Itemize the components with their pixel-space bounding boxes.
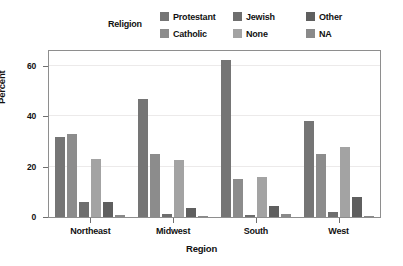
chart-legend: Religion Protestant Jewish Other xyxy=(108,8,380,42)
bar-west-other[interactable] xyxy=(352,197,362,217)
legend-label-protestant: Protestant xyxy=(173,12,216,22)
bar-northeast-na[interactable] xyxy=(115,215,125,217)
bar-northeast-other[interactable] xyxy=(103,202,113,217)
y-axis-label: Percent xyxy=(0,71,7,104)
chart-figure: Religion Protestant Jewish Other xyxy=(0,0,403,266)
legend-items: Protestant Jewish Other Catholic xyxy=(160,8,380,42)
bar-west-na[interactable] xyxy=(364,216,374,218)
legend-item-catholic[interactable]: Catholic xyxy=(160,25,233,42)
legend-item-na[interactable]: NA xyxy=(306,25,379,42)
bar-midwest-protestant[interactable] xyxy=(138,99,148,217)
legend-label-catholic: Catholic xyxy=(173,29,207,39)
legend-label-other: Other xyxy=(319,12,342,22)
bar-west-jewish[interactable] xyxy=(328,212,338,217)
legend-item-jewish[interactable]: Jewish xyxy=(233,8,306,25)
x-axis-label: Region xyxy=(0,243,403,254)
bar-midwest-none[interactable] xyxy=(174,160,184,217)
bar-south-catholic[interactable] xyxy=(233,179,243,217)
x-tick-mark xyxy=(256,218,257,223)
bar-northeast-catholic[interactable] xyxy=(67,134,77,217)
legend-label-na: NA xyxy=(319,29,332,39)
y-tick-label: 60 xyxy=(27,61,36,71)
legend-swatch-protestant xyxy=(160,12,169,21)
x-tick-label-midwest: Midwest xyxy=(156,226,190,236)
legend-row: Protestant Jewish Other xyxy=(160,8,380,25)
bar-northeast-none[interactable] xyxy=(91,159,101,217)
plot-area xyxy=(49,51,380,217)
bar-northeast-protestant[interactable] xyxy=(55,137,65,217)
x-tick-label-south: South xyxy=(244,226,269,236)
bar-midwest-na[interactable] xyxy=(198,216,208,218)
legend-swatch-none xyxy=(233,29,242,38)
bar-midwest-other[interactable] xyxy=(186,208,196,217)
bar-west-none[interactable] xyxy=(340,147,350,217)
bar-west-protestant[interactable] xyxy=(304,121,314,217)
plot-panel xyxy=(48,50,381,218)
bar-south-none[interactable] xyxy=(257,177,267,217)
bar-midwest-jewish[interactable] xyxy=(162,214,172,217)
legend-swatch-other xyxy=(306,12,315,21)
legend-item-protestant[interactable]: Protestant xyxy=(160,8,233,25)
y-tick-label: 40 xyxy=(27,111,36,121)
bar-west-catholic[interactable] xyxy=(316,154,326,217)
x-tick-label-northeast: Northeast xyxy=(70,226,110,236)
bar-midwest-catholic[interactable] xyxy=(150,154,160,217)
bar-group-northeast xyxy=(55,51,125,217)
x-tick-mark xyxy=(90,218,91,223)
bar-group-west xyxy=(304,51,374,217)
legend-swatch-jewish xyxy=(233,12,242,21)
legend-row: Catholic None NA xyxy=(160,25,380,42)
bar-south-jewish[interactable] xyxy=(245,215,255,218)
bar-group-midwest xyxy=(138,51,208,217)
legend-title: Religion xyxy=(108,19,142,29)
x-tick-mark xyxy=(339,218,340,223)
bar-northeast-jewish[interactable] xyxy=(79,202,89,217)
y-axis: 0204060 xyxy=(0,50,48,220)
legend-label-none: None xyxy=(246,29,268,39)
legend-item-other[interactable]: Other xyxy=(306,8,379,25)
y-tick-label: 20 xyxy=(27,162,36,172)
legend-swatch-catholic xyxy=(160,29,169,38)
legend-swatch-na xyxy=(306,29,315,38)
bar-group-south xyxy=(221,51,291,217)
x-tick-mark xyxy=(173,218,174,223)
bar-south-na[interactable] xyxy=(281,214,291,217)
bar-south-protestant[interactable] xyxy=(221,60,231,217)
x-tick-label-west: West xyxy=(328,226,349,236)
bar-south-other[interactable] xyxy=(269,206,279,217)
legend-item-none[interactable]: None xyxy=(233,25,306,42)
legend-label-jewish: Jewish xyxy=(246,12,275,22)
y-tick-label: 0 xyxy=(31,212,36,222)
